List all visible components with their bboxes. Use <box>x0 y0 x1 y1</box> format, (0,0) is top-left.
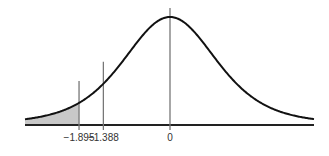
distribution-chart: −1.895−1.3880 <box>0 0 329 156</box>
tick-labels: −1.895−1.3880 <box>64 132 174 143</box>
tick-label: 0 <box>167 132 173 143</box>
vertical-markers <box>79 8 170 130</box>
tick-label: −1.388 <box>88 132 119 143</box>
